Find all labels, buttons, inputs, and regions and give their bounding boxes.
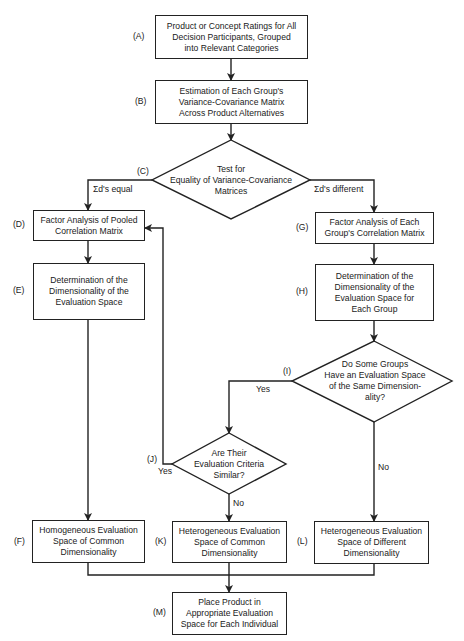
node-h-line-2: Dimensionality of the — [335, 282, 415, 293]
node-m-line-2: Appropriate Evaluation — [181, 608, 278, 619]
node-f-box: Homogeneous Evaluation Space of Common D… — [32, 520, 145, 563]
node-e-box: Determination of the Dimensionality of t… — [33, 263, 145, 320]
node-g-line-2: Group's Correlation Matrix — [324, 228, 424, 239]
node-i-decision: Do Some Groups Have an Evaluation Space … — [310, 357, 440, 405]
node-f-label: (F) — [14, 536, 25, 547]
node-k-label: (K) — [155, 536, 166, 547]
node-m-line-3: Space for Each Individual — [181, 619, 278, 630]
node-d-line-2: Correlation Matrix — [41, 226, 138, 237]
node-h-label: (H) — [296, 286, 308, 297]
node-d-line-1: Factor Analysis of Pooled — [41, 215, 138, 226]
node-j-line-2: Evaluation Criteria — [194, 459, 264, 470]
node-e-line-3: Evaluation Space — [49, 297, 129, 308]
node-j-decision: Are Their Evaluation Criteria Similar? — [180, 447, 278, 481]
node-c-label: (C) — [137, 166, 149, 177]
edge-label-equal: Σd's equal — [93, 184, 132, 195]
node-l-line-3: Dimensionality — [321, 548, 422, 559]
node-h-box: Determination of the Dimensionality of t… — [315, 264, 434, 321]
node-l-label: (L) — [297, 536, 308, 547]
node-a-line-2: Decision Participants, Grouped — [167, 32, 296, 43]
node-c-decision: Test for Equality of Variance-Covariance… — [155, 160, 307, 200]
node-a-line-1: Product or Concept Ratings for All — [167, 21, 296, 32]
node-c-line-3: Matrices — [170, 186, 292, 197]
node-b-label: (B) — [135, 96, 146, 107]
node-h-line-3: Evaluation Space for — [335, 293, 415, 304]
node-i-label: (I) — [283, 366, 291, 377]
node-m-box: Place Product in Appropriate Evaluation … — [172, 592, 287, 635]
node-l-line-1: Heterogeneous Evaluation — [321, 526, 422, 537]
node-h-line-4: Each Group — [335, 304, 415, 315]
node-c-line-2: Equality of Variance-Covariance — [170, 175, 292, 186]
node-g-line-1: Factor Analysis of Each — [324, 217, 424, 228]
edge-label-different: Σd's different — [314, 184, 363, 195]
node-l-line-2: Space of Different — [321, 537, 422, 548]
node-m-label: (M) — [153, 607, 166, 618]
node-k-line-1: Heterogeneous Evaluation — [179, 526, 280, 537]
node-j-label: (J) — [147, 454, 157, 465]
node-b-line-1: Estimation of Each Group's — [179, 86, 284, 97]
node-b-line-3: Across Product Alternatives — [179, 108, 284, 119]
node-j-line-1: Are Their — [194, 448, 264, 459]
node-i-line-4: ality? — [324, 392, 425, 403]
node-f-line-3: Dimensionality — [39, 547, 137, 558]
node-k-line-2: Space of Common — [179, 537, 280, 548]
node-k-line-3: Dimensionality — [179, 548, 280, 559]
node-j-line-3: Similar? — [194, 470, 264, 481]
edge-label-i-no: No — [378, 462, 389, 473]
node-f-line-1: Homogeneous Evaluation — [39, 525, 137, 536]
node-d-label: (D) — [13, 219, 25, 230]
node-g-label: (G) — [296, 222, 308, 233]
node-k-box: Heterogeneous Evaluation Space of Common… — [172, 521, 287, 563]
node-f-line-2: Space of Common — [39, 536, 137, 547]
node-c-line-1: Test for — [170, 164, 292, 175]
node-i-line-1: Do Some Groups — [324, 359, 425, 370]
node-e-label: (E) — [13, 285, 24, 296]
node-b-box: Estimation of Each Group's Variance-Cova… — [155, 80, 308, 124]
node-l-box: Heterogeneous Evaluation Space of Differ… — [314, 521, 429, 564]
node-e-line-2: Dimensionality of the — [49, 286, 129, 297]
node-m-line-1: Place Product in — [181, 597, 278, 608]
node-a-box: Product or Concept Ratings for All Decis… — [155, 15, 308, 59]
node-d-box: Factor Analysis of Pooled Correlation Ma… — [33, 210, 145, 241]
node-i-line-3: of the Same Dimension- — [324, 381, 425, 392]
edge-label-i-yes: Yes — [256, 384, 270, 395]
node-b-line-2: Variance-Covariance Matrix — [179, 97, 284, 108]
node-h-line-1: Determination of the — [335, 271, 415, 282]
node-a-label: (A) — [133, 31, 144, 42]
edge-label-j-yes: Yes — [158, 466, 172, 477]
edge-label-j-no: No — [233, 498, 244, 509]
node-a-line-3: into Relevant Categories — [167, 43, 296, 54]
node-e-line-1: Determination of the — [49, 275, 129, 286]
node-i-line-2: Have an Evaluation Space — [324, 370, 425, 381]
node-g-box: Factor Analysis of Each Group's Correlat… — [315, 212, 434, 244]
